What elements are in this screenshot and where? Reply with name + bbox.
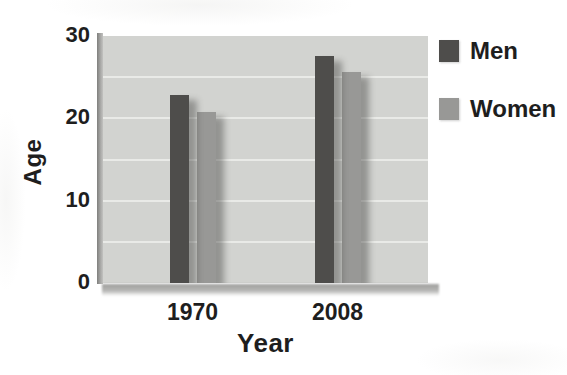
bar-men-1970 [170,95,189,283]
plot-area [103,36,428,283]
x-tick-1970: 1970 [167,299,218,326]
bar-women-2008 [342,72,361,283]
gridline-25 [103,76,428,78]
legend-item-men: Men [439,37,518,65]
legend-label-women: Women [470,95,556,123]
gridline-15 [103,159,428,161]
y-tick-0: 0 [30,269,90,295]
y-tick-20: 20 [30,105,90,131]
gridline-5 [103,241,428,243]
legend-swatch-women [439,98,459,120]
gridline-10 [103,200,428,202]
x-tick-2008: 2008 [312,299,363,326]
x-axis-title: Year [103,328,428,359]
y-tick-30: 30 [30,22,90,48]
bar-men-2008 [315,56,334,283]
bar-women-1970 [197,112,216,283]
gridline-20 [103,117,428,119]
legend-swatch-men [439,40,459,62]
bar-chart-figure: Age 3020100 19702008 Year MenWomen [0,0,567,375]
legend-item-women: Women [439,95,556,123]
y-tick-10: 10 [30,187,90,213]
plot-shadow [102,284,439,296]
legend-label-men: Men [470,37,518,65]
